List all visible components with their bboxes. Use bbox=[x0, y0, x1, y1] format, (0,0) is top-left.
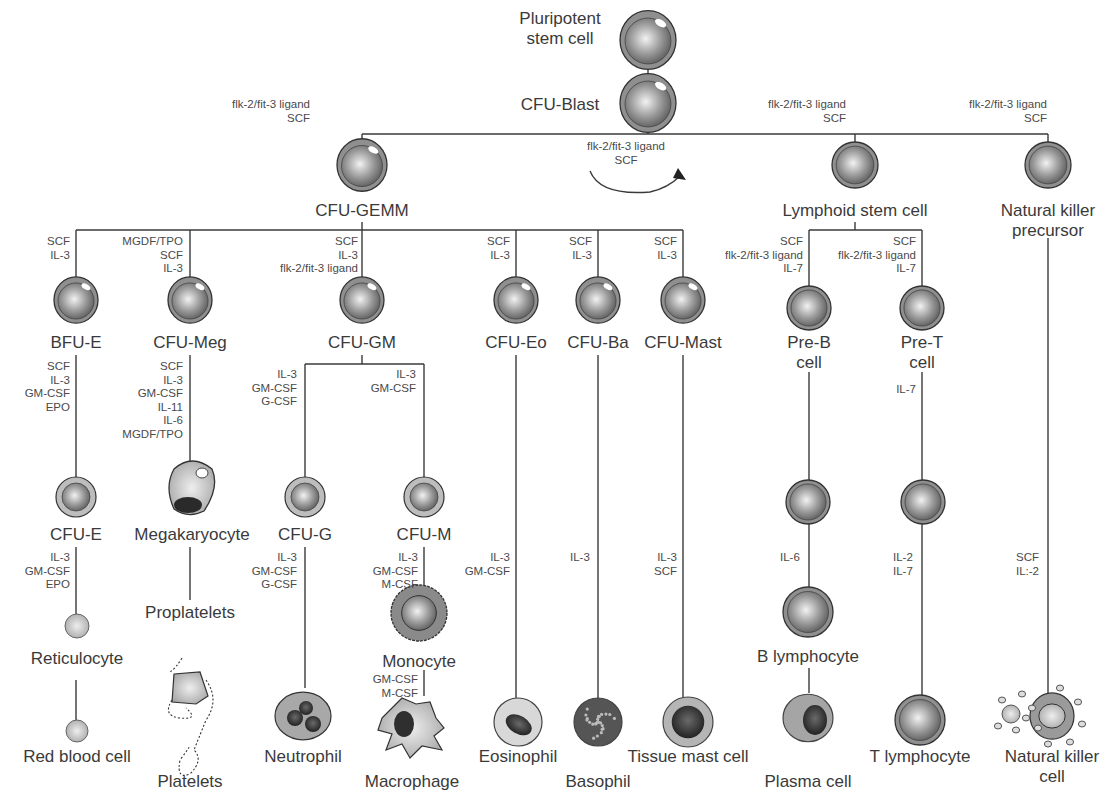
cell-icon-psc bbox=[620, 11, 676, 70]
growth-factor-label: SCF bbox=[1016, 551, 1039, 563]
growth-factor-label: GM-CSF bbox=[138, 387, 183, 399]
cell-label-psc: stem cell bbox=[526, 29, 593, 48]
growth-factor-label: IL-3 bbox=[163, 374, 183, 386]
growth-factor-label: IL-3 bbox=[570, 551, 590, 563]
growth-factor-label: flk-2/fit-3 ligand bbox=[838, 249, 916, 261]
cells bbox=[54, 11, 1086, 776]
growth-factor-label: G-CSF bbox=[261, 578, 297, 590]
growth-factor-label: SCF bbox=[335, 235, 358, 247]
cell-icon-neutro bbox=[275, 692, 331, 740]
cell-label-eosino: Eosinophil bbox=[479, 747, 557, 766]
growth-factor-label: SCF bbox=[823, 112, 846, 124]
cell-label-lymph: Lymphoid stem cell bbox=[783, 201, 928, 220]
cell-label-preb: cell bbox=[796, 353, 822, 372]
cell-label-bfue: BFU-E bbox=[51, 333, 102, 352]
self-renewal-arrow-icon bbox=[590, 168, 686, 193]
cell-icon-bfue bbox=[54, 277, 98, 323]
growth-factor-label: SCF bbox=[487, 235, 510, 247]
growth-factor-label: SCF bbox=[569, 235, 592, 247]
cell-label-mono: Monocyte bbox=[382, 652, 456, 671]
growth-factor-label: flk-2/fit-3 ligand bbox=[768, 98, 846, 110]
growth-factor-label: MGDF/TPO bbox=[122, 428, 183, 440]
growth-factor-label: IL-6 bbox=[780, 551, 800, 563]
cell-icon-cfuba bbox=[576, 277, 620, 323]
cell-label-cfumeg: CFU-Meg bbox=[153, 333, 227, 352]
cell-label-plasma: Plasma cell bbox=[765, 772, 852, 791]
growth-factor-label: flk-2/fit-3 ligand bbox=[280, 262, 358, 274]
cell-label-cfue: CFU-E bbox=[50, 525, 102, 544]
growth-factor-label: SCF bbox=[615, 154, 638, 166]
cell-icon-cfumeg bbox=[168, 277, 212, 323]
growth-factor-label: IL-6 bbox=[163, 414, 183, 426]
cell-icon-baso bbox=[574, 698, 622, 746]
growth-factor-label: GM-CSF bbox=[252, 382, 297, 394]
cell-label-platelets: Platelets bbox=[157, 772, 222, 791]
growth-factor-label: IL-3 bbox=[396, 368, 416, 380]
growth-factor-label: IL-3 bbox=[657, 249, 677, 261]
growth-factor-label: SCF bbox=[47, 360, 70, 372]
growth-factor-label: M-CSF bbox=[382, 578, 418, 590]
cell-label-prop: Proplatelets bbox=[145, 603, 235, 622]
cell-icon-platelets bbox=[168, 658, 213, 775]
cell-icon-tlym bbox=[895, 695, 945, 745]
growth-factor-label: IL-7 bbox=[896, 383, 916, 395]
cell-label-blym: B lymphocyte bbox=[757, 647, 859, 666]
growth-factor-label: IL-2 bbox=[893, 551, 913, 563]
cell-label-cfugm: CFU-GM bbox=[328, 333, 396, 352]
growth-factor-label: SCF bbox=[654, 565, 677, 577]
cell-label-retic: Reticulocyte bbox=[31, 649, 124, 668]
cell-label-nk: Natural killer bbox=[1005, 747, 1100, 766]
cell-label-cfum: CFU-M bbox=[397, 525, 452, 544]
cell-label-nkp: precursor bbox=[1012, 221, 1084, 240]
growth-factor-label: GM-CSF bbox=[373, 565, 418, 577]
cell-icon-lymph bbox=[832, 142, 878, 188]
growth-factor-label: flk-2/fit-3 ligand bbox=[587, 140, 665, 152]
cell-icon-plasma bbox=[783, 694, 833, 742]
cell-icon-blast bbox=[620, 74, 676, 133]
growth-factor-label: GM-CSF bbox=[373, 673, 418, 685]
growth-factor-label: IL-3 bbox=[50, 249, 70, 261]
cell-label-nk: cell bbox=[1039, 767, 1065, 786]
growth-factor-label: IL-3 bbox=[338, 249, 358, 261]
growth-factor-label: IL-7 bbox=[896, 262, 916, 274]
cell-label-cfueo: CFU-Eo bbox=[485, 333, 546, 352]
growth-factor-label: flk-2/fit-3 ligand bbox=[232, 98, 310, 110]
cell-label-cfumast: CFU-Mast bbox=[644, 333, 722, 352]
growth-factor-label: GM-CSF bbox=[465, 565, 510, 577]
cell-label-mast: Tissue mast cell bbox=[627, 747, 748, 766]
cell-icon-mega bbox=[169, 461, 215, 515]
growth-factor-label: IL-3 bbox=[572, 249, 592, 261]
growth-factor-label: SCF bbox=[287, 112, 310, 124]
growth-factor-label: IL-11 bbox=[158, 401, 183, 413]
hematopoiesis-diagram: Pluripotentstem cellCFU-BlastCFU-GEMMLym… bbox=[0, 0, 1119, 808]
cell-icon-cfumast bbox=[661, 277, 705, 323]
cell-label-tlym: T lymphocyte bbox=[870, 747, 971, 766]
growth-factor-label: IL-3 bbox=[490, 249, 510, 261]
growth-factor-label: IL-3 bbox=[50, 374, 70, 386]
growth-factor-label: IL-7 bbox=[783, 262, 803, 274]
cell-label-baso: Basophil bbox=[565, 772, 630, 791]
cell-label-cfug: CFU-G bbox=[278, 525, 332, 544]
growth-factor-label: IL-3 bbox=[277, 368, 297, 380]
cell-icon-preb bbox=[787, 286, 831, 330]
growth-factor-label: IL-3 bbox=[398, 551, 418, 563]
cell-label-mega: Megakaryocyte bbox=[134, 525, 249, 544]
growth-factor-label: EPO bbox=[46, 578, 70, 590]
growth-factor-label: IL:-2 bbox=[1016, 565, 1039, 577]
cell-label-gemm: CFU-GEMM bbox=[315, 201, 408, 220]
growth-factor-label: IL-3 bbox=[163, 262, 183, 274]
cell-icon-nkp bbox=[1025, 142, 1071, 188]
cell-label-pret: Pre-T bbox=[901, 333, 944, 352]
cell-label-neutro: Neutrophil bbox=[264, 747, 342, 766]
growth-factor-label: IL-3 bbox=[490, 551, 510, 563]
cell-icon-cfugm bbox=[340, 277, 384, 323]
cell-icon-bpre bbox=[786, 480, 830, 524]
growth-factor-label: flk-2/fit-3 ligand bbox=[969, 98, 1047, 110]
growth-factor-label: MGDF/TPO bbox=[122, 235, 183, 247]
cell-label-macro: Macrophage bbox=[365, 772, 460, 791]
growth-factor-label: flk-2/fit-3 ligand bbox=[725, 249, 803, 261]
growth-factor-label: GM-CSF bbox=[252, 565, 297, 577]
cell-icon-cfug bbox=[285, 477, 325, 517]
growth-factor-label: IL-3 bbox=[657, 551, 677, 563]
growth-factor-label: SCF bbox=[1024, 112, 1047, 124]
